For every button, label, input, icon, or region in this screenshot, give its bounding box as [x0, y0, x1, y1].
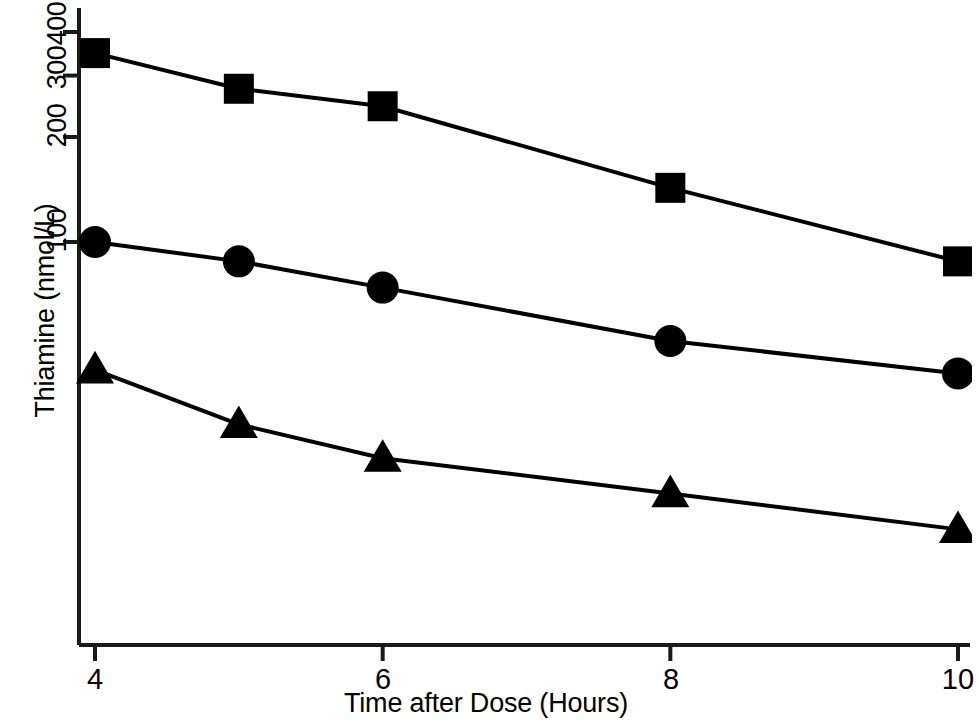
data-point-marker-circle: [223, 245, 255, 277]
y-tick-label: 400: [42, 2, 73, 46]
data-point-marker-square: [80, 38, 110, 68]
data-series-layer: [76, 38, 972, 543]
data-point-marker-triangle: [76, 351, 114, 384]
data-point-marker-circle: [942, 357, 972, 389]
axis-lines: [79, 8, 970, 645]
data-point-marker-circle: [367, 272, 399, 304]
x-axis-ticks: [95, 645, 958, 661]
data-point-marker-square: [655, 173, 685, 203]
y-axis-label: Thiamine (nmol/L): [30, 161, 61, 461]
x-axis-label: Time after Dose (Hours): [0, 688, 972, 719]
y-tick-label: 200: [42, 104, 73, 148]
data-point-marker-triangle: [220, 405, 258, 438]
data-point-marker-square: [224, 74, 254, 104]
series-circle: [79, 226, 972, 389]
data-point-marker-circle: [654, 325, 686, 357]
series-line: [95, 370, 958, 530]
data-point-marker-square: [368, 91, 398, 121]
data-point-marker-square: [943, 246, 972, 276]
series-square: [80, 38, 972, 276]
series-triangle: [76, 351, 972, 543]
data-point-marker-circle: [79, 226, 111, 258]
y-tick-label: 300: [42, 46, 73, 90]
